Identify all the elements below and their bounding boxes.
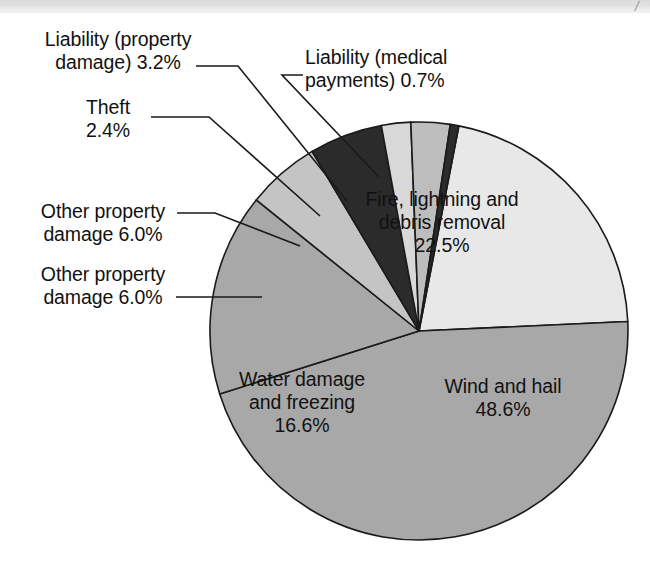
slice-label-other-property-1: Other property damage 6.0% bbox=[8, 200, 198, 246]
slice-label-other-property-2: Other property damage 6.0% bbox=[8, 263, 198, 309]
pie-chart: Liability (property damage) 3.2% Liabili… bbox=[0, 0, 650, 561]
slice-label-wind-and-hail: Wind and hail 48.6% bbox=[419, 375, 587, 421]
slice-label-water-damage-freezing: Water damage and freezing 16.6% bbox=[217, 368, 387, 437]
slice-label-theft: Theft 2.4% bbox=[18, 96, 198, 142]
slice-label-liability-medical: Liability (medical payments) 0.7% bbox=[305, 46, 500, 92]
pie-slice-group bbox=[210, 122, 628, 540]
slice-label-liability-property: Liability (property damage) 3.2% bbox=[18, 28, 218, 74]
chart-page: / Liability (property damage) 3.2% Liabi… bbox=[0, 0, 650, 561]
slice-label-fire-lightning-debris: Fire, lightning and debris removal 22.5% bbox=[352, 188, 532, 257]
